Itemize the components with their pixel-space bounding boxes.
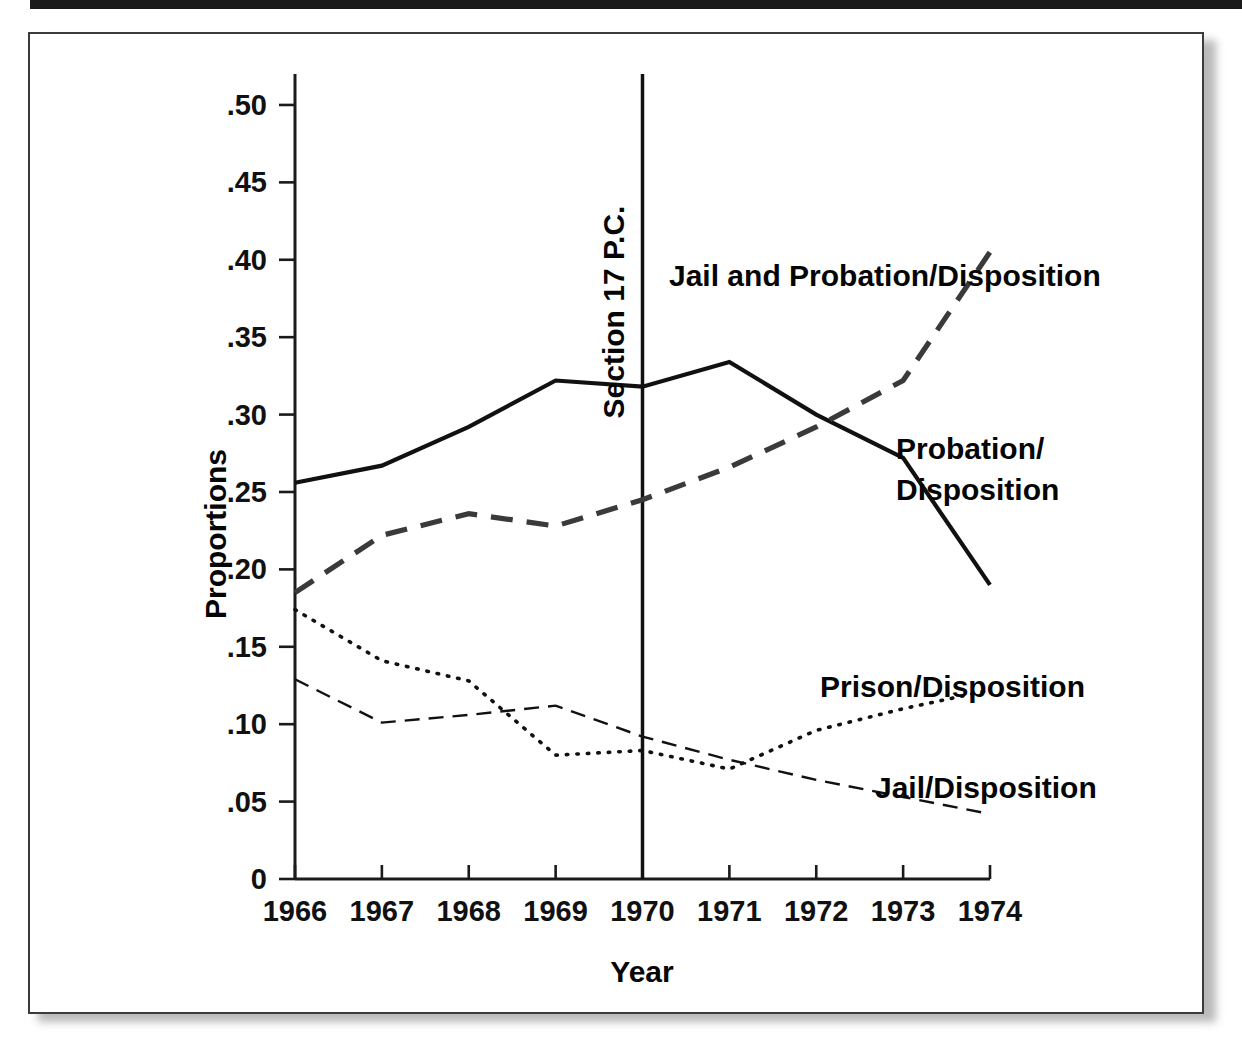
y-axis-ticks: 0.05.10.15.20.25.30.35.40.45.50 — [227, 89, 295, 895]
y-tick-label: .50 — [227, 89, 267, 121]
line-chart: 0.05.10.15.20.25.30.35.40.45.50 19661967… — [30, 34, 1206, 1016]
y-tick-label: .35 — [227, 321, 267, 353]
y-tick-label: .25 — [227, 476, 267, 508]
x-tick-label: 1971 — [697, 895, 762, 927]
x-tick-label: 1972 — [784, 895, 849, 927]
y-tick-label: .30 — [227, 399, 267, 431]
x-tick-label: 1970 — [610, 895, 675, 927]
y-tick-label: .20 — [227, 553, 267, 585]
x-tick-label: 1969 — [523, 895, 588, 927]
y-axis-title: Proportions — [199, 449, 232, 619]
x-tick-label: 1974 — [958, 895, 1023, 927]
x-tick-label: 1968 — [436, 895, 501, 927]
label-prison-disposition: Prison/Disposition — [820, 670, 1085, 703]
label-probation-disposition-line2: Disposition — [896, 473, 1059, 506]
section-17-pc-label: Section 17 P.C. — [597, 206, 630, 419]
y-tick-label: .05 — [227, 786, 267, 818]
figure-frame: 0.05.10.15.20.25.30.35.40.45.50 19661967… — [28, 32, 1204, 1014]
x-tick-label: 1967 — [350, 895, 415, 927]
y-tick-label: .10 — [227, 708, 267, 740]
x-axis-title: Year — [610, 955, 674, 988]
label-jail-disposition: Jail/Disposition — [875, 771, 1097, 804]
label-jail-and-probation-disposition: Jail and Probation/Disposition — [669, 259, 1101, 292]
y-tick-label: .45 — [227, 166, 267, 198]
chart-plot-area: 0.05.10.15.20.25.30.35.40.45.50 19661967… — [30, 34, 1206, 1016]
y-tick-label: 0 — [251, 863, 267, 895]
x-tick-label: 1973 — [871, 895, 936, 927]
scan-edge-bar — [30, 0, 1242, 9]
x-tick-label: 1966 — [263, 895, 328, 927]
y-tick-label: .15 — [227, 631, 267, 663]
label-probation-disposition-line1: Probation/ — [896, 432, 1045, 465]
y-tick-label: .40 — [227, 244, 267, 276]
